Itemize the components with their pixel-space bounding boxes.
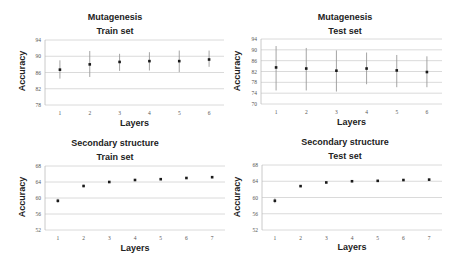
y-tick-label: 90 <box>252 47 258 53</box>
data-point <box>118 61 121 64</box>
y-tick-label: 64 <box>36 179 42 185</box>
data-point <box>335 69 338 72</box>
x-tick-label: 7 <box>211 235 214 241</box>
y-tick-label: 52 <box>253 227 259 233</box>
y-tick-label: 56 <box>253 211 259 217</box>
chart-secondary-structure-train: Secondary structure Train set Accuracy L… <box>0 132 230 264</box>
x-tick-label: 4 <box>365 109 368 115</box>
y-tick-label: 82 <box>252 69 258 75</box>
data-point <box>365 67 368 70</box>
y-tick-label: 60 <box>36 195 42 201</box>
chart-secondary-structure-test: Secondary structure Test set Accuracy La… <box>230 132 460 264</box>
plot-area: 52566064681234567 <box>0 132 230 264</box>
x-tick-label: 1 <box>56 235 59 241</box>
y-tick-label: 82 <box>36 86 42 92</box>
data-point <box>426 71 429 74</box>
x-tick-label: 6 <box>402 235 405 241</box>
data-point <box>208 58 211 61</box>
data-point <box>185 177 188 180</box>
data-point <box>134 179 137 182</box>
x-tick-label: 3 <box>108 235 111 241</box>
x-tick-label: 2 <box>88 110 91 116</box>
y-tick-label: 64 <box>253 178 259 184</box>
chart-mutagenesis-test: Mutagenesis Test set Accuracy Layers 707… <box>230 0 460 132</box>
plot-area: 7882869094123456 <box>0 0 230 132</box>
y-tick-label: 78 <box>252 79 258 85</box>
x-tick-label: 6 <box>185 235 188 241</box>
x-tick-label: 4 <box>351 235 354 241</box>
y-tick-label: 68 <box>36 163 42 169</box>
x-tick-label: 4 <box>134 235 137 241</box>
x-tick-label: 2 <box>82 235 85 241</box>
y-tick-label: 94 <box>252 36 258 42</box>
data-point <box>274 199 277 202</box>
x-tick-label: 5 <box>159 235 162 241</box>
y-tick-label: 86 <box>36 70 42 76</box>
x-tick-label: 5 <box>376 235 379 241</box>
x-tick-label: 3 <box>325 235 328 241</box>
data-point <box>299 185 302 188</box>
x-tick-label: 7 <box>428 235 431 241</box>
y-tick-label: 68 <box>253 162 259 168</box>
y-tick-label: 90 <box>36 53 42 59</box>
x-tick-label: 5 <box>178 110 181 116</box>
data-point <box>82 185 85 188</box>
data-point <box>108 181 111 184</box>
data-point <box>428 178 431 181</box>
x-tick-label: 6 <box>426 109 429 115</box>
x-tick-label: 3 <box>335 109 338 115</box>
data-point <box>148 60 151 63</box>
x-tick-label: 6 <box>208 110 211 116</box>
x-tick-label: 3 <box>118 110 121 116</box>
y-tick-label: 94 <box>36 37 42 43</box>
chart-mutagenesis-train: Mutagenesis Train set Accuracy Layers 78… <box>0 0 230 132</box>
x-tick-label: 2 <box>299 235 302 241</box>
data-point <box>402 179 405 182</box>
y-tick-label: 74 <box>252 90 258 96</box>
data-point <box>351 180 354 183</box>
x-tick-label: 4 <box>148 110 151 116</box>
data-point <box>57 200 60 203</box>
x-tick-label: 1 <box>275 109 278 115</box>
plot-area: 70747882869094123456 <box>230 0 460 132</box>
data-point <box>159 178 162 181</box>
x-tick-label: 2 <box>305 109 308 115</box>
data-point <box>305 67 308 70</box>
x-tick-label: 1 <box>273 235 276 241</box>
data-point <box>211 176 214 179</box>
y-tick-label: 52 <box>36 227 42 233</box>
data-point <box>88 63 91 66</box>
data-point <box>395 69 398 72</box>
y-tick-label: 78 <box>36 102 42 108</box>
data-point <box>275 66 278 69</box>
y-tick-label: 86 <box>252 58 258 64</box>
data-point <box>59 68 62 71</box>
y-tick-label: 60 <box>253 195 259 201</box>
data-point <box>325 181 328 184</box>
data-point <box>376 180 379 183</box>
data-point <box>178 60 181 63</box>
x-tick-label: 1 <box>59 110 62 116</box>
y-tick-label: 70 <box>252 101 258 107</box>
x-tick-label: 5 <box>395 109 398 115</box>
plot-area: 52566064681234567 <box>230 132 460 264</box>
y-tick-label: 56 <box>36 211 42 217</box>
